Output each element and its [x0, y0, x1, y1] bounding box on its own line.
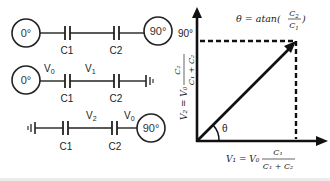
circuit-row-2: 0° V0 V1 C1 C2 — [12, 63, 153, 104]
cap-c1-label: C1 — [61, 45, 74, 56]
node-v2-label: V2 — [86, 110, 97, 122]
circuit-row-1: 0° 90° C1 C2 — [12, 17, 172, 56]
angle-theta-label: θ — [222, 123, 228, 134]
svg-text:C₁: C₁ — [273, 148, 282, 157]
svg-text:C₂: C₂ — [173, 65, 182, 74]
bottom-strip — [0, 178, 330, 181]
cap-c1-label: C1 — [60, 141, 73, 152]
source-90deg-label: 90° — [150, 25, 167, 37]
capacitor-c1-icon — [63, 121, 68, 135]
svg-text:C₁ + C₂: C₁ + C₂ — [187, 55, 196, 85]
cap-c2-label: C2 — [110, 45, 123, 56]
svg-text:V₁ = V₀: V₁ = V₀ — [226, 154, 260, 164]
capacitor-c2-icon — [112, 121, 117, 135]
x-axis-arrow-icon — [316, 136, 328, 146]
svg-text:V₂ = V₀: V₂ = V₀ — [179, 86, 189, 120]
source-90deg-label: 90° — [143, 122, 160, 134]
phasor-diagram: θ 90° θ = atan( C2 C1 ) V₁ = V₀ C₁ C₁ + … — [173, 7, 328, 171]
capacitor-c1-icon — [65, 26, 70, 40]
v1-formula: V₁ = V₀ C₁ C₁ + C₂ — [226, 148, 295, 171]
resultant-vector — [198, 48, 290, 140]
svg-text:θ = atan(: θ = atan( — [236, 13, 281, 24]
cap-c1-label: C1 — [61, 93, 74, 104]
node-v1-label: V1 — [85, 63, 96, 75]
ground-icon — [146, 75, 153, 87]
svg-text:): ) — [301, 13, 306, 24]
svg-text:C1: C1 — [289, 21, 299, 31]
capacitor-c1-icon — [65, 74, 70, 88]
cap-c2-label: C2 — [109, 141, 122, 152]
capacitor-c2-icon — [114, 74, 119, 88]
y-axis-arrow-icon — [192, 7, 202, 18]
circuit-row-3: 90° V2 V0 C1 C2 — [28, 110, 165, 152]
node-v0-label: V0 — [124, 110, 135, 122]
capacitor-c2-icon — [114, 26, 119, 40]
y-tick-90deg-label: 90° — [178, 28, 193, 39]
source-0deg-label: 0° — [21, 74, 32, 86]
ground-icon — [28, 122, 35, 134]
source-0deg-label: 0° — [21, 27, 32, 39]
theta-formula: θ = atan( C2 C1 ) — [236, 9, 306, 31]
angle-arc — [213, 125, 219, 141]
v2-formula: V₂ = V₀ C₂ C₁ + C₂ — [173, 54, 196, 120]
cap-c2-label: C2 — [110, 93, 123, 104]
svg-text:C2: C2 — [289, 9, 299, 19]
node-v0-label: V0 — [44, 63, 55, 75]
svg-text:C₁ + C₂: C₁ + C₂ — [263, 162, 293, 171]
capacitive-divider-diagram: 0° 90° C1 C2 0° — [0, 0, 330, 181]
